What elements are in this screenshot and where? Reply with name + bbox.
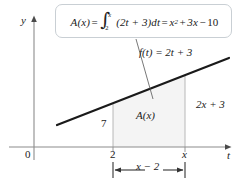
formula-integrand: (2t + 3) — [116, 16, 151, 28]
formula-minus-sign: − — [198, 16, 207, 28]
integral-upper-limit: x — [108, 11, 111, 18]
y-axis-label: y — [21, 15, 26, 26]
tick-label-2: 2 — [110, 149, 116, 160]
formula-equals-sign: = — [90, 16, 99, 28]
right-height-label: 2x + 3 — [196, 99, 225, 110]
formula-function-name: A(x) — [71, 16, 90, 28]
formula-differential: dt — [151, 16, 160, 28]
function-line-label: f(t) = 2t + 3 — [139, 47, 192, 58]
formula-expression: A(x) = ∫ x 2 (2t + 3) dt = x2 + 3x − 10 — [56, 5, 233, 39]
formula-plus-sign: + — [178, 16, 187, 28]
formula-result-term3: 10 — [207, 16, 218, 28]
figure-container: A(x) = ∫ x 2 (2t + 3) dt = x2 + 3x − 10 … — [0, 0, 241, 184]
integral-lower-limit: 2 — [105, 24, 108, 31]
integral-sign-group: ∫ x 2 — [100, 13, 115, 31]
tick-label-x: x — [182, 149, 187, 160]
left-height-label: 7 — [101, 118, 107, 129]
area-region-label: A(x) — [136, 110, 155, 121]
origin-label: 0 — [25, 149, 31, 160]
formula-result-equals: = — [160, 16, 169, 28]
t-axis-label: t — [227, 150, 230, 161]
formula-box: A(x) = ∫ x 2 (2t + 3) dt = x2 + 3x − 10 — [55, 4, 232, 38]
base-width-label: x − 2 — [136, 161, 159, 172]
formula-result-term2: 3x — [187, 16, 198, 28]
